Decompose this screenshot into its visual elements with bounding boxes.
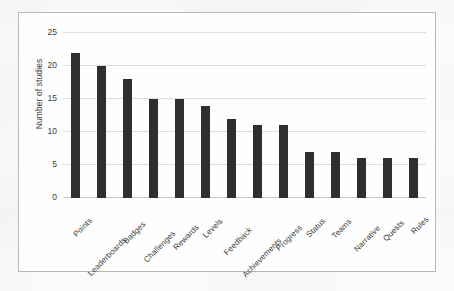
bar (71, 53, 80, 198)
bar (331, 152, 340, 198)
bar (279, 125, 288, 198)
x-axis-tick-label: Rewards (171, 223, 200, 252)
x-axis-tick-label: Badges (121, 220, 147, 246)
x-axis-tick-label: Points (71, 216, 94, 239)
bar (227, 119, 236, 198)
y-axis-tick-label: 15 (48, 93, 57, 103)
bar-chart: Number of studies 0510152025 PointsLeade… (19, 13, 437, 273)
bar (123, 79, 132, 198)
x-axis-tick-label: Feedback (222, 225, 254, 257)
x-axis-tick-label: Teams (330, 217, 353, 240)
y-axis-tick-label: 10 (48, 126, 57, 136)
bar (149, 99, 158, 198)
x-axis-tick-label: Rules (409, 215, 430, 236)
plot-area: 0510152025 (63, 33, 426, 198)
x-axis-labels-group: PointsLeaderboardsBadgesChallengesReward… (63, 200, 426, 272)
x-axis-tick-label: Leaderboards (86, 236, 128, 278)
bar (357, 158, 366, 198)
y-axis-tick-label: 0 (52, 192, 57, 202)
bar (383, 158, 392, 198)
bar (305, 152, 314, 198)
bar (253, 125, 262, 198)
x-axis-tick-label: Quests (381, 218, 406, 243)
bars-group (63, 33, 426, 198)
bar (97, 66, 106, 198)
bar (409, 158, 418, 198)
y-axis-tick-label: 20 (48, 60, 57, 70)
y-axis-tick-label: 25 (48, 27, 57, 37)
y-axis-tick-label: 5 (52, 159, 57, 169)
x-axis-tick-label: Status (305, 216, 328, 239)
x-axis-tick-label: Levels (201, 217, 224, 240)
x-axis-tick-label: Narrative (352, 224, 382, 254)
bar (175, 99, 184, 198)
bar (201, 106, 210, 198)
y-axis-title: Number of studies (34, 24, 44, 164)
chart-figure-frame: Number of studies 0510152025 PointsLeade… (18, 12, 436, 272)
